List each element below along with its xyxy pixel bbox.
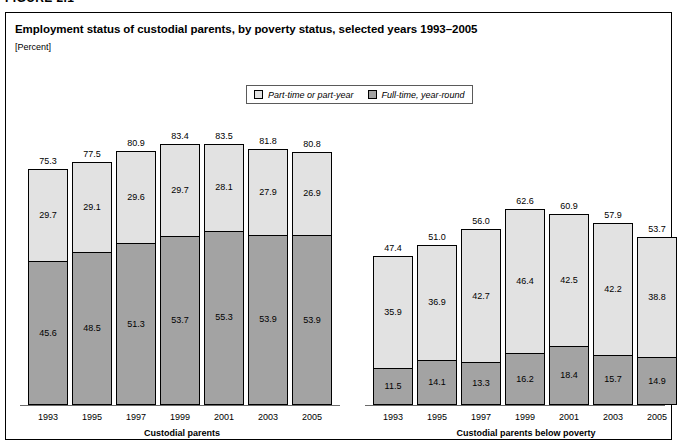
bar-segment-full-time: 18.4 <box>549 347 589 405</box>
segment-value-label: 16.2 <box>516 375 534 384</box>
bar-segment-part-time: 42.2 <box>593 223 633 355</box>
segment-value-label: 15.7 <box>604 375 622 384</box>
bar-custodial-parents-below-poverty-1993: 47.435.911.5 <box>373 256 413 405</box>
bar-custodial-parents-below-poverty-2003: 57.942.215.7 <box>593 223 633 405</box>
bar-total-label: 62.6 <box>505 196 545 206</box>
bar-segment-part-time: 38.8 <box>637 237 677 359</box>
bar-custodial-parents-below-poverty-1997: 56.042.713.3 <box>461 229 501 405</box>
x-axis-line <box>365 405 665 406</box>
bar-custodial-parents-below-poverty-2001: 60.942.518.4 <box>549 214 589 405</box>
x-tick-label-2001: 2001 <box>549 412 589 422</box>
figure-frame: Employment status of custodial parents, … <box>5 12 672 440</box>
x-tick-label-1997: 1997 <box>461 412 501 422</box>
segment-value-label: 42.5 <box>560 276 578 285</box>
chart-panel-custodial-parents-below-poverty: 47.435.911.5199351.036.914.1199556.042.7… <box>6 13 671 439</box>
x-tick-label-1999: 1999 <box>505 412 545 422</box>
panel-caption-custodial-parents-below-poverty: Custodial parents below poverty <box>456 428 595 438</box>
bar-segment-part-time: 42.5 <box>549 214 589 347</box>
segment-value-label: 42.7 <box>472 292 490 301</box>
segment-value-label: 14.1 <box>428 378 446 387</box>
x-tick-label-2005: 2005 <box>637 412 677 422</box>
bar-total-label: 47.4 <box>373 243 413 253</box>
bar-custodial-parents-below-poverty-1999: 62.646.416.2 <box>505 209 545 405</box>
bar-segment-full-time: 14.1 <box>417 361 457 405</box>
bar-segment-part-time: 46.4 <box>505 209 545 354</box>
bar-segment-part-time: 36.9 <box>417 245 457 361</box>
x-tick-label-2003: 2003 <box>593 412 633 422</box>
bar-segment-full-time: 16.2 <box>505 354 545 405</box>
segment-value-label: 38.8 <box>648 293 666 302</box>
segment-value-label: 46.4 <box>516 277 534 286</box>
segment-value-label: 14.9 <box>648 377 666 386</box>
bar-custodial-parents-below-poverty-2005: 53.738.814.9 <box>637 237 677 405</box>
bar-total-label: 57.9 <box>593 210 633 220</box>
bar-segment-full-time: 15.7 <box>593 356 633 405</box>
segment-value-label: 35.9 <box>384 308 402 317</box>
segment-value-label: 36.9 <box>428 298 446 307</box>
figure-number: FIGURE 2.1 <box>5 0 74 5</box>
segment-value-label: 42.2 <box>604 285 622 294</box>
bar-segment-full-time: 11.5 <box>373 369 413 405</box>
segment-value-label: 13.3 <box>472 379 490 388</box>
bar-total-label: 60.9 <box>549 201 589 211</box>
bar-segment-part-time: 35.9 <box>373 256 413 369</box>
bar-total-label: 53.7 <box>637 224 677 234</box>
bar-total-label: 51.0 <box>417 232 457 242</box>
bar-segment-part-time: 42.7 <box>461 229 501 363</box>
x-tick-label-1993: 1993 <box>373 412 413 422</box>
x-tick-label-1995: 1995 <box>417 412 457 422</box>
segment-value-label: 11.5 <box>385 382 402 391</box>
bar-segment-full-time: 13.3 <box>461 363 501 405</box>
bar-segment-full-time: 14.9 <box>637 358 677 405</box>
bar-total-label: 56.0 <box>461 216 501 226</box>
segment-value-label: 18.4 <box>560 371 578 380</box>
bar-custodial-parents-below-poverty-1995: 51.036.914.1 <box>417 245 457 405</box>
